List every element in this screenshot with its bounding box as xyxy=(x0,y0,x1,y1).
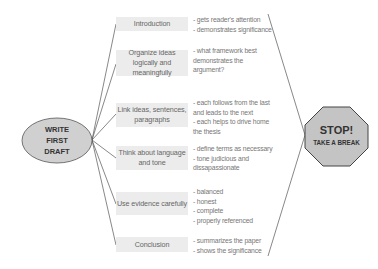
start-label-line: DRAFT xyxy=(22,146,92,157)
notes-organize-ideas: - what framework best demonstrates the a… xyxy=(193,46,257,75)
start-label-line: WRITE xyxy=(22,124,92,135)
step-introduction: Introduction xyxy=(116,17,188,31)
step-use-evidence: Use evidence carefully xyxy=(116,192,188,215)
notes-use-evidence: - balanced - honest - complete - properl… xyxy=(193,187,253,225)
start-label-line: FIRST xyxy=(22,135,92,146)
step-organize-ideas: Organize ideas logically and meaningfull… xyxy=(116,50,188,76)
step-language-tone: Think about language and tone xyxy=(116,146,188,170)
notes-introduction: - gets reader's attention - demonstrates… xyxy=(193,15,272,34)
stop-title: STOP! xyxy=(305,124,368,136)
step-link-ideas: Link ideas, sentences, paragraphs xyxy=(116,103,188,127)
step-conclusion: Conclusion xyxy=(116,237,188,252)
notes-conclusion: - summarizes the paper - shows the signi… xyxy=(193,236,262,255)
stop-subtitle: TAKE A BREAK xyxy=(305,139,368,146)
stop-octagon xyxy=(305,107,368,166)
notes-language-tone: - define terms as necessary - tone judic… xyxy=(193,144,272,173)
notes-link-ideas: - each follows from the last and leads t… xyxy=(193,98,270,136)
start-node-label: WRITE FIRST DRAFT xyxy=(22,124,92,157)
